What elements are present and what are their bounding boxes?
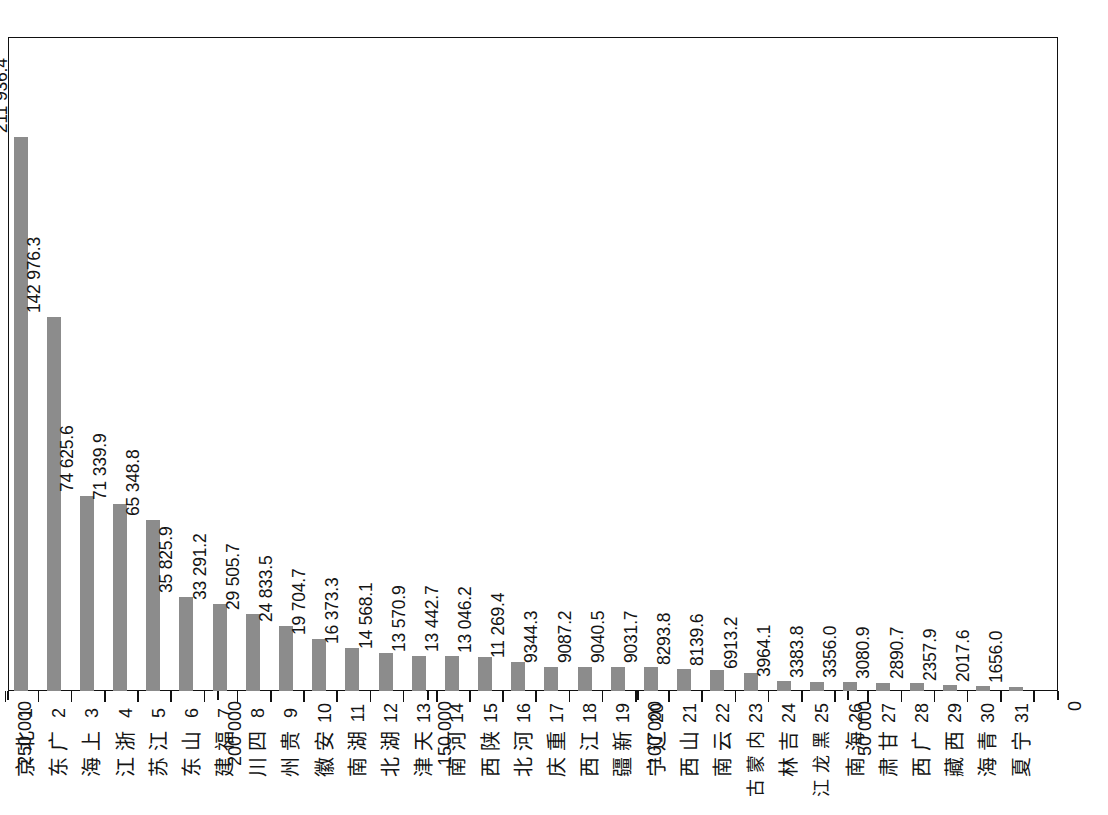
bar-value-label: 13 046.2	[455, 633, 475, 653]
category-name-label: 四川	[241, 728, 274, 780]
category-name-label: 福建	[208, 728, 241, 780]
bar-value-label: 65 348.8	[123, 496, 143, 516]
category-name-label: 河南	[440, 728, 473, 780]
category-name-label: 黑龙江	[805, 728, 838, 800]
category-name-label: 内蒙古	[739, 728, 772, 800]
bar-rect	[379, 653, 393, 691]
category-label-item: 8四川	[241, 700, 274, 815]
category-name-label: 北京	[9, 728, 42, 780]
category-label-item: 15陕西	[474, 700, 507, 815]
bar-item: 3080.9	[872, 37, 905, 691]
category-label-item: 3上海	[75, 700, 108, 815]
bar-rect	[478, 657, 492, 691]
category-name-label: 甘肃	[872, 728, 905, 780]
category-name-label: 浙江	[109, 728, 142, 780]
bar-rect	[644, 667, 658, 691]
category-name-glyph: 西	[676, 750, 702, 783]
category-name-glyph: 江	[810, 771, 834, 804]
bar-value-label: 33 291.2	[190, 580, 210, 600]
category-label-item: 26海南	[839, 700, 872, 815]
category-axis-labels: 1北京2广东3上海4浙江5江苏6山东7福建8四川9贵州10安徽11湖南12湖北1…	[8, 700, 1058, 815]
bar-value-label: 3080.9	[853, 659, 873, 679]
category-name-glyph: 藏	[942, 750, 968, 783]
bar-item: 74 625.6	[75, 37, 108, 691]
bar-rect	[710, 670, 724, 691]
category-name-glyph: 宁	[643, 750, 669, 783]
category-label-item: 28广西	[905, 700, 938, 815]
category-name-label: 湖南	[341, 728, 374, 780]
category-axis-tick	[5, 691, 7, 702]
bar-value-label: 9031.7	[621, 643, 641, 663]
category-label-item: 19新疆	[606, 700, 639, 815]
bar-item: 11 269.4	[507, 37, 540, 691]
category-name-label: 湖北	[374, 728, 407, 780]
bar-item: 3356.0	[839, 37, 872, 691]
bar-value-label: 9040.5	[588, 643, 608, 663]
bar-rect	[578, 667, 592, 691]
category-name-glyph: 北	[510, 750, 536, 783]
category-label-item: 1北京	[9, 700, 42, 815]
bar-item: 142 976.3	[42, 37, 75, 691]
bar-rect	[445, 656, 459, 691]
bar-value-label: 71 339.9	[90, 480, 110, 500]
category-name-label: 广西	[905, 728, 938, 780]
category-name-label: 重庆	[540, 728, 573, 780]
category-name-glyph: 海	[975, 750, 1001, 783]
bar-value-label: 3964.1	[754, 657, 774, 677]
bar-value-label: 16 373.3	[322, 624, 342, 644]
category-label-item: 2广东	[42, 700, 75, 815]
bar-rect	[511, 662, 525, 691]
bar-value-label: 2890.7	[887, 659, 907, 679]
bar-item: 9031.7	[640, 37, 673, 691]
category-label-item: 22云南	[706, 700, 739, 815]
bar-item: 211 936.4	[9, 37, 42, 691]
bar-item: 3383.8	[805, 37, 838, 691]
bar-rect	[246, 614, 260, 691]
category-label-item: 5江苏	[142, 700, 175, 815]
bar-item: 9087.2	[573, 37, 606, 691]
category-name-glyph: 南	[842, 750, 868, 783]
category-name-label: 吉林	[772, 728, 805, 780]
category-label-item: 25黑龙江	[805, 700, 838, 815]
bar-value-label: 6913.2	[721, 649, 741, 669]
category-label-item: 6山东	[175, 700, 208, 815]
bar-value-label: 2017.6	[953, 662, 973, 682]
category-name-glyph: 京	[13, 750, 39, 783]
bar-item: 2890.7	[905, 37, 938, 691]
category-label-item: 18江西	[573, 700, 606, 815]
category-name-glyph: 东	[179, 750, 205, 783]
category-label-item: 24吉林	[772, 700, 805, 815]
category-label-item: 9贵州	[274, 700, 307, 815]
bar-rect	[345, 648, 359, 691]
category-name-label: 云南	[706, 728, 739, 780]
category-name-glyph: 肃	[875, 750, 901, 783]
category-label-item: 30青海	[971, 700, 1004, 815]
bar-rect	[843, 682, 857, 691]
category-name-glyph: 古	[744, 771, 768, 804]
category-name-glyph: 建	[212, 750, 238, 783]
bar-value-label: 11 269.4	[488, 638, 508, 658]
bar-value-label: 9344.3	[521, 643, 541, 663]
category-name-glyph: 州	[278, 750, 304, 783]
category-label-item: 7福建	[208, 700, 241, 815]
category-name-label: 天津	[407, 728, 440, 780]
category-name-label: 西藏	[938, 728, 971, 780]
category-name-label: 广东	[42, 728, 75, 780]
category-label-item: 10安徽	[308, 700, 341, 815]
chart-figure: 050 000100 000150 000200 000250 000 211 …	[0, 0, 1108, 815]
bar-item: 3964.1	[772, 37, 805, 691]
category-label-item: 27甘肃	[872, 700, 905, 815]
category-name-glyph: 江	[112, 750, 138, 783]
category-name-glyph: 林	[776, 750, 802, 783]
bar-value-label: 8293.8	[654, 645, 674, 665]
category-name-glyph: 南	[709, 750, 735, 783]
bar-value-label: 142 976.3	[24, 293, 44, 313]
bar-rect	[544, 667, 558, 691]
category-name-label: 山西	[673, 728, 706, 780]
bar-value-label: 3356.0	[820, 658, 840, 678]
bar-item: 6913.2	[739, 37, 772, 691]
bar-rect	[312, 639, 326, 691]
bar-value-label: 13 442.7	[422, 632, 442, 652]
category-name-label: 陕西	[474, 728, 507, 780]
category-name-glyph: 徽	[311, 750, 337, 783]
